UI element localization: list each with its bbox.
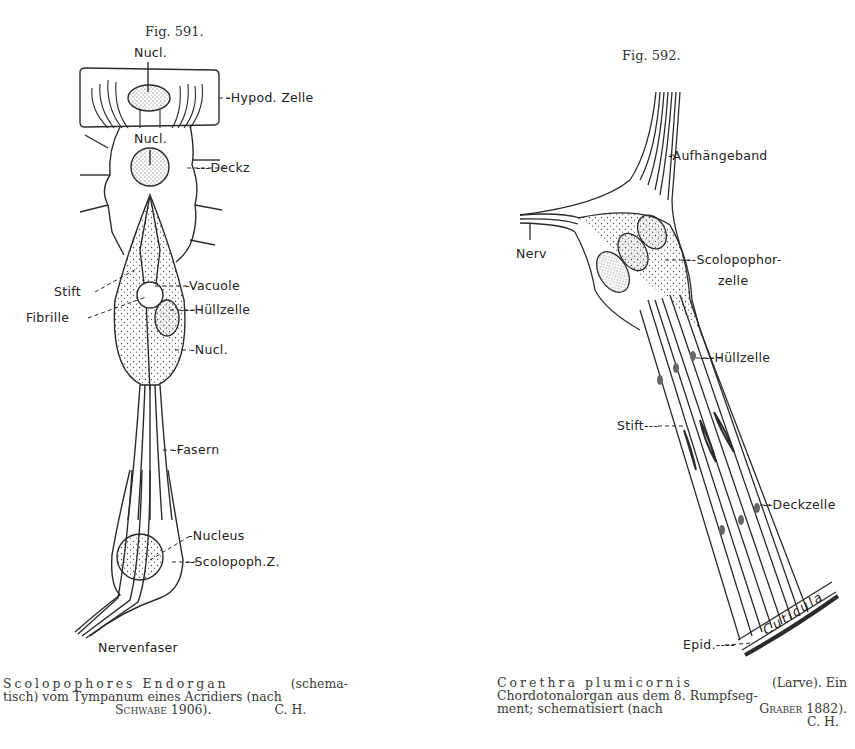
label-nerv: Nerv [516, 246, 547, 261]
label-aufhaengeband: -Aufhängeband [668, 148, 768, 163]
label-zelle: zelle [718, 273, 748, 288]
caption-592-line1-rest: (Larve). Ein [772, 676, 847, 689]
label-deckzelle: --Deckzelle [763, 497, 836, 512]
figure-592-caption: Corethra plumicornis (Larve). Ein Chordo… [497, 676, 847, 728]
caption-592-initials: C. H. [497, 715, 847, 728]
caption-592-line3: ment; schematisiert (nach [497, 702, 663, 715]
label-huellzelle-592: ---Hüllzelle [700, 350, 770, 365]
label-scolopophor: ---Scolopophor- [682, 252, 782, 267]
label-stift-592: Stift--- [617, 418, 658, 433]
label-epid: Epid.---- [683, 637, 735, 652]
